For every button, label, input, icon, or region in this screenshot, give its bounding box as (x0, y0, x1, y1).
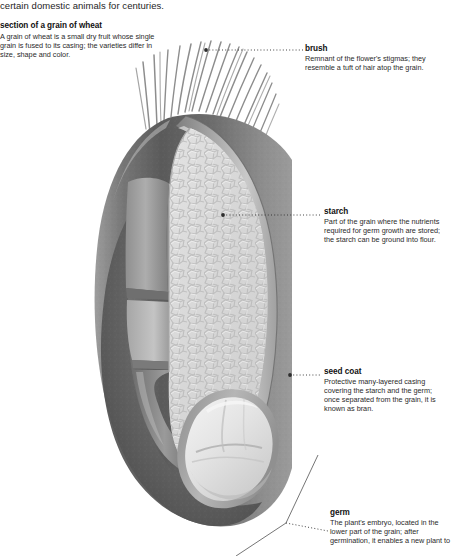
leader-line-germ (286, 523, 328, 531)
callout-starch: starch Part of the grain where the nutri… (324, 207, 446, 245)
callout-brush: brush Remnant of the flower's stigmas; t… (305, 44, 427, 73)
callout-germ-title: germ (330, 508, 452, 518)
leader-bracket-germ-lower (236, 523, 286, 556)
callout-seed-coat-title: seed coat (324, 367, 446, 377)
callout-germ-body: The plant's embryo, located in the lower… (330, 519, 452, 546)
callout-brush-title: brush (305, 44, 427, 54)
callout-germ: germ The plant's embryo, located in the … (330, 508, 452, 546)
callout-starch-title: starch (324, 207, 446, 217)
callout-seed-coat: seed coat Protective many-layered casing… (324, 367, 446, 414)
callout-brush-body: Remnant of the flower's stigmas; they re… (305, 55, 427, 73)
callout-seed-coat-body: Protective many-layered casing covering … (324, 378, 446, 414)
callout-starch-body: Part of the grain where the nutrients re… (324, 218, 446, 245)
